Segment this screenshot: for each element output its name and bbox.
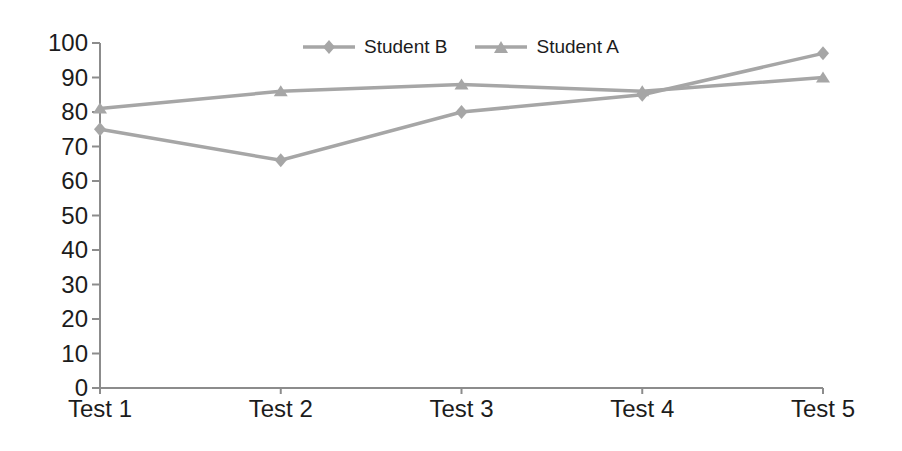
x-axis-label: Test 1 [68,396,132,422]
y-tick-label: 50 [61,203,88,229]
legend-label-student-b: Student B [364,36,447,58]
x-axis-label: Test 3 [429,396,493,422]
x-axis-label: Test 2 [249,396,313,422]
legend-item-student-b: Student B [303,36,447,58]
diamond-marker [456,105,468,119]
y-tick-label: 90 [61,65,88,91]
legend: Student B Student A [303,36,619,58]
triangle-series-marker-icon [475,39,527,55]
diamond-marker [275,153,287,167]
diamond-marker [94,122,106,136]
y-tick-label: 30 [61,272,88,298]
y-tick-label: 100 [48,30,88,56]
y-tick-label: 70 [61,134,88,160]
x-axis-label: Test 4 [610,396,674,422]
legend-label-student-a: Student A [536,36,618,58]
diamond-marker [817,46,829,60]
y-tick-label: 60 [61,168,88,194]
x-axis-label: Test 5 [791,396,855,422]
y-tick-label: 10 [61,341,88,367]
diamond-series-marker-icon [303,39,355,55]
plot-area [0,0,902,451]
legend-item-student-a: Student A [475,36,618,58]
y-tick-label: 80 [61,99,88,125]
y-tick-label: 40 [61,237,88,263]
y-tick-label: 20 [61,306,88,332]
line-chart: Student B Student A 01020304050607080901… [0,0,902,451]
